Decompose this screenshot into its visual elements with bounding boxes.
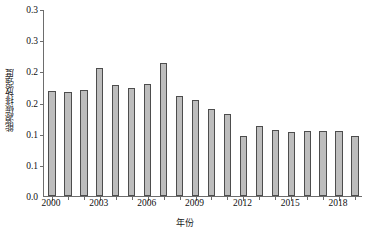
bar	[48, 91, 55, 196]
bar	[240, 136, 247, 196]
bar	[176, 96, 183, 196]
bar	[112, 85, 119, 196]
y-tick-label: 0.0	[26, 192, 38, 202]
bar	[144, 84, 151, 196]
bar	[335, 131, 342, 196]
y-axis-tick-labels: 0.30.30.20.20.10.10.0	[12, 0, 40, 200]
x-tick-label: 2012	[233, 198, 252, 208]
bar	[304, 131, 311, 196]
y-tick-mark	[40, 10, 44, 11]
bar	[160, 63, 167, 196]
bar	[288, 132, 295, 196]
bar	[351, 136, 358, 196]
y-tick-label: 0.2	[26, 99, 38, 109]
bar	[96, 68, 103, 196]
bar	[319, 131, 326, 196]
bar	[272, 130, 279, 196]
y-tick-mark	[40, 166, 44, 167]
y-tick-mark	[40, 41, 44, 42]
x-tick-label: 2018	[329, 198, 348, 208]
x-tick-label: 2000	[41, 198, 60, 208]
x-tick-label: 2015	[281, 198, 300, 208]
y-tick-label: 0.1	[26, 130, 38, 140]
bar	[64, 92, 71, 196]
y-tick-label: 0.3	[26, 36, 38, 46]
bar	[192, 100, 199, 196]
x-tick-label: 2006	[137, 198, 156, 208]
bar	[128, 88, 135, 196]
y-tick-label: 0.2	[26, 67, 38, 77]
plot-area	[43, 10, 362, 197]
bar	[80, 90, 87, 196]
bar	[256, 126, 263, 196]
x-tick-label: 2009	[185, 198, 204, 208]
bar-chart: 能源碳排放强度 0.30.30.20.20.10.10.0 2000200320…	[0, 0, 370, 241]
y-tick-mark	[40, 135, 44, 136]
x-axis-title: 年份	[0, 216, 370, 229]
x-tick-label: 2003	[89, 198, 108, 208]
bars-layer	[44, 10, 362, 196]
bar	[224, 114, 231, 196]
y-tick-mark	[40, 104, 44, 105]
x-axis-tick-labels: 2000200320062009201220152018	[43, 198, 361, 214]
bar	[208, 109, 215, 196]
y-tick-label: 0.1	[26, 161, 38, 171]
y-tick-label: 0.3	[26, 5, 38, 15]
y-tick-mark	[40, 72, 44, 73]
